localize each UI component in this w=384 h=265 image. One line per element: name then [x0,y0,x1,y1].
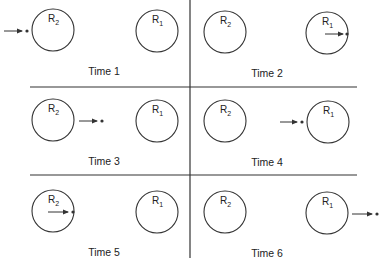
time-label: Time 1 [88,65,120,77]
receptor-label: R2 [220,195,231,208]
receptor-r2: R2 [204,100,246,142]
receptor-label: R1 [322,16,333,29]
panel-time-4: R2R1Time 4 [204,100,349,168]
panel-time-1: R2R1Time 1 [4,9,178,77]
panel-time-5: R2R1Time 5 [32,190,178,258]
stimulus-dot-icon [345,32,348,35]
stimulus-dot-icon [25,29,28,32]
time-label: Time 6 [251,247,283,259]
stimulus [325,32,349,35]
receptor-r1: R1 [306,192,348,234]
receptor-label: R1 [322,196,333,209]
panel-time-6: R2R1Time 6 [204,191,379,259]
stimulus-dot-icon [100,119,103,122]
receptor-r2: R2 [204,11,246,53]
receptor-label: R1 [323,105,334,118]
receptor-r1: R1 [306,12,348,54]
receptor-label: R2 [220,15,231,28]
panels: R2R1Time 1R2R1Time 2R2R1Time 3R2R1Time 4… [4,9,379,259]
receptor-r2: R2 [204,191,246,233]
stimulus [280,120,304,123]
stimulus [352,212,379,215]
receptor-r2: R2 [32,190,74,232]
time-label: Time 5 [88,246,120,258]
receptor-label: R2 [48,194,59,207]
receptor-r1: R1 [136,100,178,142]
receptor-label: R1 [152,195,163,208]
receptor-label: R1 [152,14,163,27]
time-label: Time 2 [251,67,283,79]
stimulus-dot-icon [300,120,303,123]
receptor-r1: R1 [136,191,178,233]
panel-time-3: R2R1Time 3 [32,99,178,167]
panel-time-2: R2R1Time 2 [204,11,349,79]
receptor-r1: R1 [136,10,178,52]
stimulus [4,29,29,32]
stimulus-dot-icon [71,210,74,213]
time-label: Time 3 [88,155,120,167]
receptor-label: R2 [220,104,231,117]
stimulus-dot-icon [375,212,378,215]
diagram-canvas: R2R1Time 1R2R1Time 2R2R1Time 3R2R1Time 4… [0,0,384,265]
receptor-label: R2 [48,103,59,116]
receptor-r2: R2 [32,9,74,51]
time-label: Time 4 [251,156,283,168]
receptor-label: R2 [48,13,59,26]
receptor-r1: R1 [307,101,349,143]
stimulus [48,210,75,213]
receptor-r2: R2 [32,99,74,141]
receptor-label: R1 [152,104,163,117]
stimulus [79,119,104,122]
